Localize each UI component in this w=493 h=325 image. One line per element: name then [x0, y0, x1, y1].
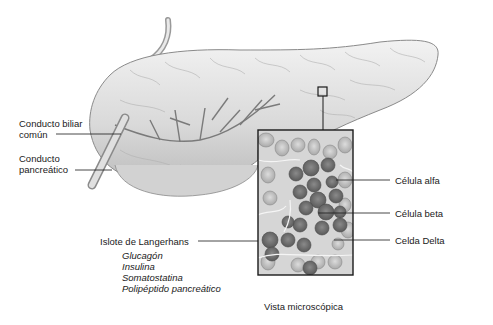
hormone-list: Glucagón Insulina Somatostatina Polipépt… [122, 250, 221, 294]
label-pancreatic-duct-line1: Conducto [19, 153, 68, 164]
hormone-pancreatic-polypeptide: Polipéptido pancreático [122, 283, 221, 294]
hormone-insulin: Insulina [122, 261, 221, 272]
label-microscopic-view: Vista microscópica [264, 301, 343, 312]
hormone-somatostatin: Somatostatina [122, 272, 221, 283]
pancreas-diagram [0, 0, 493, 325]
label-bile-duct-line2: común [19, 129, 82, 140]
label-alpha-cell: Célula alfa [395, 175, 440, 186]
label-beta-cell: Célula beta [395, 208, 443, 219]
label-delta-cell: Celda Delta [395, 235, 445, 246]
label-pancreatic-duct-line2: pancreático [19, 164, 68, 175]
label-bile-duct: Conducto biliar común [19, 118, 82, 140]
hormone-glucagon: Glucagón [122, 250, 221, 261]
label-islet: Islote de Langerhans [100, 236, 189, 247]
microscopic-inset [258, 130, 355, 275]
label-pancreatic-duct: Conducto pancreático [19, 153, 68, 175]
label-bile-duct-line1: Conducto biliar [19, 118, 82, 129]
